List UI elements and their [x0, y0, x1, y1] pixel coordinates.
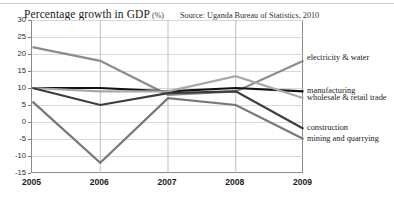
plot-area	[31, 20, 303, 173]
x-tick-label: 2007	[147, 177, 187, 187]
y-tick-mark	[28, 173, 31, 174]
y-tick-label: 10	[4, 84, 26, 92]
x-tick-label: 2006	[79, 177, 119, 187]
x-tick-label: 2008	[215, 177, 255, 187]
source-note: Source: Uganda Bureau of Statistics, 201…	[180, 11, 319, 20]
y-tick-label: 5	[4, 101, 26, 109]
y-tick-label: 15	[4, 67, 26, 75]
legend-label-electricity-water: electricity & water	[307, 53, 369, 62]
y-tick-label: -10	[4, 152, 26, 160]
x-tick-label: 2009	[283, 177, 323, 187]
y-tick-label: 25	[4, 33, 26, 41]
y-tick-label: 30	[4, 16, 26, 24]
legend-label-wholesale-retail-trade: wholesale & retail trade	[307, 93, 386, 102]
chart-header: Percentage growth in GDP(%)Source: Ugand…	[24, 4, 390, 18]
y-tick-label: 20	[4, 50, 26, 58]
chart-page: Percentage growth in GDP(%)Source: Ugand…	[0, 0, 394, 200]
page-title: Percentage growth in GDP	[24, 8, 150, 20]
y-tick-label: -5	[4, 135, 26, 143]
y-tick-label: -15	[4, 169, 26, 177]
chart-lines	[32, 20, 304, 173]
y-tick-label: 0	[4, 118, 26, 126]
x-tick-label: 2005	[12, 177, 52, 187]
legend-label-mining-and-quarrying: mining and quarrying	[307, 134, 379, 143]
legend-label-construction: construction	[307, 123, 348, 132]
title-unit: (%)	[152, 11, 164, 20]
